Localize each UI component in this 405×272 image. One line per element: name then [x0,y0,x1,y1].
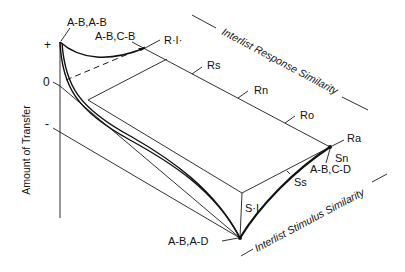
y-axis-label: Amount of Transfer [20,105,32,195]
label-rn: Rn [254,84,268,96]
zero-plane-mid-line [88,59,167,100]
curve-left-inner [62,43,240,238]
node-ab-ad [238,236,242,240]
response-back-edge [132,42,330,147]
pointer-ab-ad [222,238,238,241]
zero-plane-left-edge [53,82,60,86]
node-ab-cd [328,145,332,149]
rs-tick [192,67,202,74]
stimulus-axis-label: Interlist Stimulus Similarity [252,185,366,253]
tick-zero: 0 [43,75,50,89]
label-ab-cb: A-B,C-B [95,30,135,42]
label-si: S·I· [245,202,263,214]
ri-extension [145,40,160,48]
pointer-ab-ab [61,28,70,41]
zero-plane-front-edge [60,86,240,238]
curve-ab-ab-to-ab-cb [60,42,145,57]
label-ss: Ss [294,176,307,188]
response-axis-line-left [192,15,216,28]
label-rs: Rs [207,59,221,71]
label-ab-ad: A-B,A-D [168,235,208,247]
label-ra: Ra [347,132,362,144]
ss-tick [287,171,290,174]
tick-plus: + [44,38,51,52]
label-ri: R·I· [164,34,182,46]
minus-baseline [53,128,240,238]
stimulus-axis-line-left [241,249,253,256]
transfer-surface-diagram: + 0 - Amount of Transfer [0,0,405,272]
ra-extension [330,140,344,147]
stimulus-axis-line-right [372,174,387,182]
ro-tick [285,116,295,123]
pointer-ab-cd [326,149,330,163]
response-axis-label: Interlist Response Similarity [220,25,341,97]
surface-edge-middle [88,100,242,193]
label-ab-cd: A-B,C-D [310,163,351,175]
tick-minus: - [45,117,49,131]
rn-tick [238,91,248,98]
label-ab-ab: A-B,A-B [67,16,107,28]
label-ro: Ro [300,109,314,121]
response-axis-line-right [342,97,368,110]
curve-ab-ad-to-ab-cd [240,147,330,238]
si-vertical-edge [240,193,242,238]
